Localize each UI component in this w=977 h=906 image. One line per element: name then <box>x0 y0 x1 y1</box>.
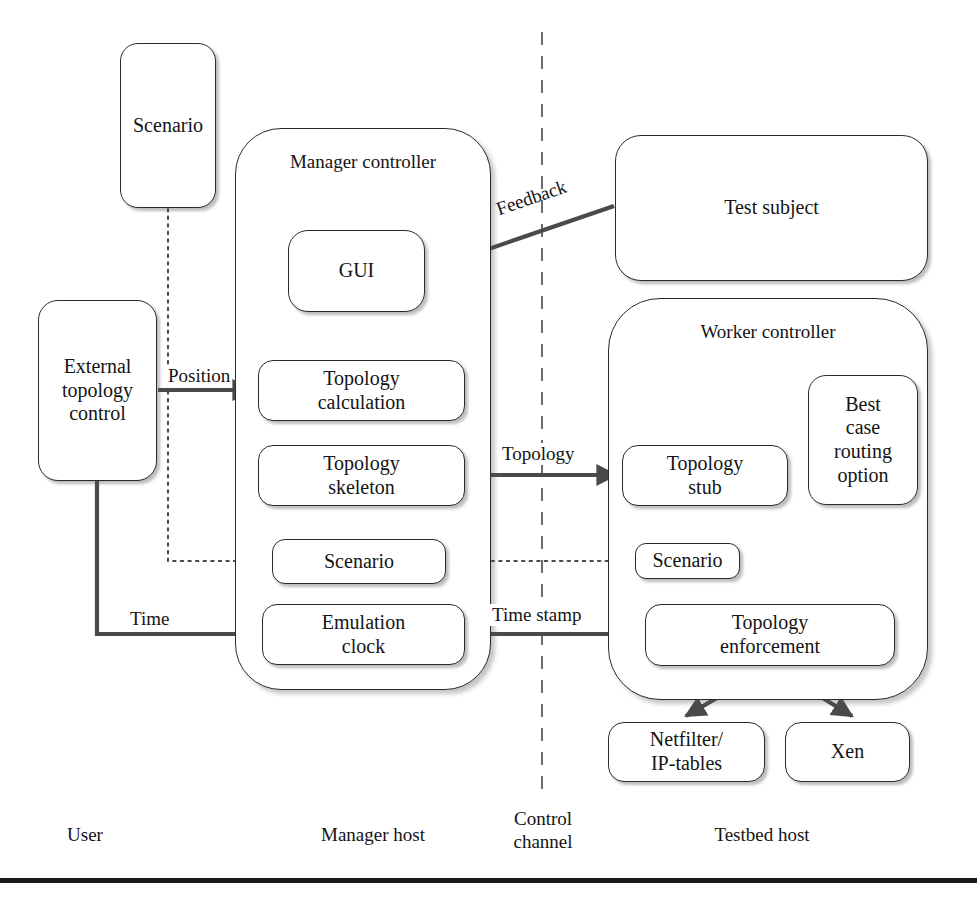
edge-label-position: Position <box>166 365 232 387</box>
topology-skeleton-label: Topologyskeleton <box>323 452 399 499</box>
zone-label-testbed-host: Testbed host <box>672 824 852 847</box>
zone-label-manager-host: Manager host <box>288 824 458 847</box>
worker-scenario-node[interactable]: Scenario <box>635 543 740 579</box>
topology-calculation-node[interactable]: Topologycalculation <box>258 360 465 421</box>
external-topology-control-node[interactable]: Externaltopologycontrol <box>38 300 157 481</box>
netfilter-iptables-label: Netfilter/IP-tables <box>650 728 723 775</box>
emulation-clock-label: Emulationclock <box>322 611 405 658</box>
manager-scenario-node[interactable]: Scenario <box>272 539 446 584</box>
edge-label-topology: Topology <box>500 443 577 465</box>
xen-node[interactable]: Xen <box>785 722 910 782</box>
external-topology-control-label: Externaltopologycontrol <box>62 355 133 426</box>
edge-time <box>97 481 256 634</box>
user-scenario-node[interactable]: Scenario <box>120 43 216 208</box>
test-subject-label: Test subject <box>724 196 819 220</box>
edge-label-time-stamp: Time stamp <box>490 604 584 626</box>
user-scenario-label: Scenario <box>133 114 203 138</box>
gui-label: GUI <box>339 259 375 283</box>
xen-label: Xen <box>831 740 864 764</box>
worker-controller-label: Worker controller <box>700 321 835 343</box>
edge-label-time: Time <box>128 608 171 630</box>
manager-controller-label: Manager controller <box>290 151 436 173</box>
topology-calculation-label: Topologycalculation <box>318 367 406 414</box>
topology-stub-text: Topologystub <box>667 452 743 499</box>
best-case-routing-option-node[interactable]: Bestcaseroutingoption <box>808 375 918 505</box>
manager-scenario-label: Scenario <box>324 550 394 574</box>
topology-stub-text-holder: Topologystub <box>622 445 788 506</box>
zone-label-user: User <box>25 824 145 847</box>
topology-enforcement-node[interactable]: Topologyenforcement <box>645 604 895 666</box>
zone-label-control-channel: Controlchannel <box>495 808 591 854</box>
topology-skeleton-node[interactable]: Topologyskeleton <box>258 445 465 506</box>
emulation-clock-node[interactable]: Emulationclock <box>262 604 465 665</box>
test-subject-node[interactable]: Test subject <box>615 135 928 281</box>
best-case-routing-option-label: Bestcaseroutingoption <box>834 393 892 487</box>
gui-node[interactable]: GUI <box>288 230 425 312</box>
diagram-canvas: Manager controller Worker controller Sce… <box>0 0 977 906</box>
netfilter-iptables-node[interactable]: Netfilter/IP-tables <box>608 722 765 782</box>
worker-scenario-label: Scenario <box>653 549 723 573</box>
topology-enforcement-label: Topologyenforcement <box>720 611 820 658</box>
footer-divider-rule <box>0 878 977 883</box>
